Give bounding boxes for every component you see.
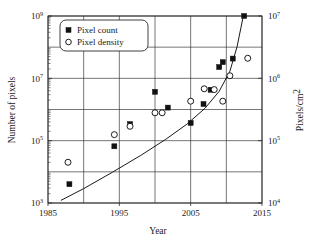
legend: Pixel count Pixel density: [60, 20, 148, 51]
y-axis-tick-label: 107: [31, 72, 43, 84]
data-point-pixel-density: [127, 123, 133, 129]
chart-canvas: 109107105103 107106105104 19851995200520…: [0, 0, 317, 244]
data-point-pixel-density: [159, 110, 165, 116]
pixel-trends-chart-figure: 109107105103 107106105104 19851995200520…: [0, 0, 317, 244]
y-axis-tick-label: 109: [31, 10, 43, 22]
data-point-pixel-density: [211, 87, 217, 93]
data-point-pixel-count: [230, 56, 235, 61]
data-point-pixel-count: [165, 105, 170, 110]
y2-axis-title: Pixels/cm2: [292, 89, 305, 131]
series-pixel-density-markers: [65, 55, 251, 165]
x-axis-tick-label: 2015: [253, 208, 272, 218]
data-point-pixel-density: [152, 110, 158, 116]
data-point-pixel-count: [217, 65, 222, 70]
x-axis-tick-label: 2005: [182, 208, 201, 218]
data-point-pixel-density: [111, 132, 117, 138]
data-point-pixel-count: [67, 182, 72, 187]
x-axis-title: Year: [149, 226, 167, 236]
legend-marker-pixel-density: [66, 39, 72, 45]
data-point-pixel-density: [201, 86, 207, 92]
y2-axis-title-superscript: 2: [292, 89, 302, 94]
y2-axis-tick-label: 105: [268, 134, 280, 146]
legend-label-pixel-density: Pixel density: [77, 37, 124, 47]
data-point-pixel-count: [112, 144, 117, 149]
x-axis-tick-label: 1995: [110, 208, 129, 218]
y2-axis-tick-label: 104: [268, 197, 280, 209]
data-point-pixel-density: [245, 55, 251, 61]
data-point-pixel-density: [65, 159, 71, 165]
x-axis-tick-label: 1985: [39, 208, 58, 218]
data-point-pixel-density: [188, 98, 194, 104]
y2-axis-title-base: Pixels/cm: [295, 93, 305, 131]
data-point-pixel-count: [220, 60, 225, 65]
y2-axis-tick-label: 107: [268, 10, 280, 22]
y2-axis-tick-label: 106: [268, 72, 280, 84]
data-point-pixel-count: [153, 89, 158, 94]
data-point-pixel-count: [188, 120, 193, 125]
y2-axis-tick-labels: 107106105104: [258, 10, 280, 209]
data-point-pixel-count: [242, 14, 247, 19]
data-point-pixel-density: [220, 98, 226, 104]
y-axis-tick-label: 103: [31, 197, 43, 209]
x-axis-tick-labels: 1985199520052015: [39, 208, 272, 218]
legend-marker-pixel-count: [66, 28, 71, 33]
y-axis-tick-labels: 109107105103: [31, 10, 52, 209]
legend-label-pixel-count: Pixel count: [77, 25, 118, 35]
y-axis-tick-label: 105: [31, 134, 43, 146]
y-axis-title: Number of pixels: [7, 76, 17, 143]
data-point-pixel-density: [227, 73, 233, 79]
data-point-pixel-count: [201, 102, 206, 107]
